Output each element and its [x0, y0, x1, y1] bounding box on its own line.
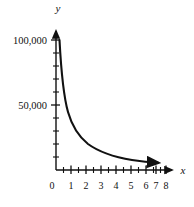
x-tick-label-1: 1: [69, 180, 74, 191]
x-tick-label-3: 3: [99, 180, 104, 191]
x-axis-label: x: [180, 164, 186, 176]
y-tick-label-100000: 100,000: [13, 35, 47, 46]
y-tick-label-50000: 50,000: [18, 100, 47, 111]
origin-label: 0: [50, 180, 55, 191]
x-tick-label-6: 6: [144, 180, 149, 191]
x-tick-label-2: 2: [84, 180, 89, 191]
x-tick-label-8: 8: [164, 180, 169, 191]
x-tick-label-7: 7: [154, 180, 159, 191]
x-tick-label-4: 4: [114, 180, 119, 191]
x-tick-label-5: 5: [129, 180, 134, 191]
decay-curve-chart: y x 100,000 50,000 0 1 2 3 4 5 6 7 8: [0, 0, 194, 207]
y-axis-label: y: [55, 2, 61, 14]
